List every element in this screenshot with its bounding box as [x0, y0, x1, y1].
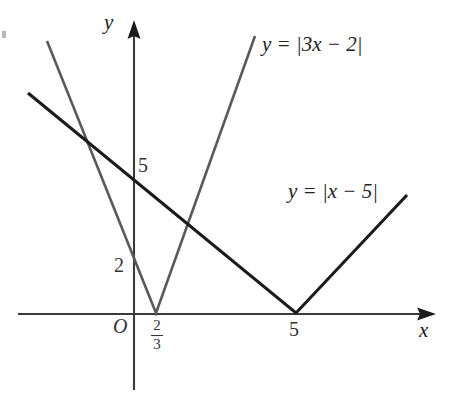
- curve-abs-3x-minus-2-path: [47, 36, 255, 313]
- curve-label-abs-x-minus-5: y = |x − 5|: [288, 181, 378, 202]
- absolute-value-graph-figure: y = |3x − 2| y = |x − 5| y x O 5 2 2 3 5: [0, 0, 451, 395]
- y-tick-label-2: 2: [114, 255, 124, 275]
- y-tick-label-5: 5: [138, 155, 148, 175]
- curve-label-abs-3x-minus-2: y = |3x − 2|: [262, 34, 363, 55]
- fraction-two-thirds: 2 3: [151, 318, 163, 353]
- curve-abs-3x-minus-2: [47, 36, 255, 313]
- curve-abs-x-minus-5-path: [28, 93, 407, 313]
- plot-canvas: [0, 0, 451, 395]
- y-axis-label: y: [104, 12, 113, 33]
- x-tick-label-5: 5: [289, 319, 299, 339]
- fraction-denominator: 3: [151, 337, 163, 353]
- y-axis: [128, 20, 141, 390]
- origin-label: O: [113, 316, 127, 336]
- curve-abs-x-minus-5: [28, 93, 407, 313]
- fraction-numerator: 2: [151, 318, 163, 334]
- x-tick-label-two-thirds: 2 3: [146, 318, 168, 353]
- x-axis: [18, 308, 436, 321]
- x-axis-label: x: [419, 320, 428, 341]
